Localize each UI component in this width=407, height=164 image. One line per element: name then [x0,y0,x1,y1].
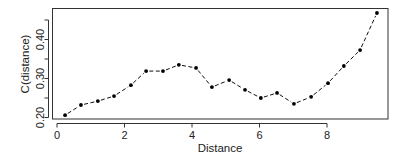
x-axis: 02468 [54,124,330,142]
data-point [210,85,214,89]
data-point [259,96,263,100]
data-point [63,113,67,117]
data-point [342,64,346,68]
data-point [243,88,247,92]
y-axis: 0.200.300.40 [34,20,49,128]
data-point [326,81,330,85]
data-point [375,11,379,15]
data-point [177,63,181,67]
x-tick-label: 0 [54,129,60,141]
series-segment [133,73,143,83]
series-segment [232,82,242,88]
data-point [161,69,165,73]
data-point [275,91,279,95]
series-segment [248,91,258,96]
series-segment [166,66,176,70]
data-point [309,95,313,99]
data-point [79,103,83,107]
data-point [129,83,133,87]
series-segment [215,81,226,86]
series-segment [84,102,95,104]
data-point [227,78,231,82]
data-series [63,11,379,117]
x-tick-label: 6 [256,129,262,141]
series-segment [280,95,292,102]
series-segment [182,65,193,67]
series-segment [330,68,342,80]
series-segment [361,16,375,47]
series-segment [117,87,129,94]
chart: 02468 0.200.300.40 Distance C(distance) [0,0,407,164]
data-point [144,69,148,73]
series-segment [346,52,358,63]
data-point [358,48,362,52]
series-segment [198,70,210,84]
series-segment [314,85,326,95]
data-point [194,66,198,70]
y-axis-title: C(distance) [19,34,31,93]
y-tick-label: 0.20 [34,107,46,128]
series-segment [68,107,78,114]
x-tick-label: 4 [189,129,195,141]
y-tick-label: 0.40 [34,29,46,50]
data-point [96,99,100,103]
data-point [112,94,116,98]
x-tick-label: 8 [324,129,330,141]
data-point [292,102,296,106]
series-segment [101,97,111,100]
series-segment [297,98,308,103]
x-tick-label: 2 [121,129,127,141]
x-axis-title: Distance [198,142,243,154]
plot-frame [53,9,389,120]
series-segment [264,94,274,97]
y-tick-label: 0.30 [34,68,46,89]
